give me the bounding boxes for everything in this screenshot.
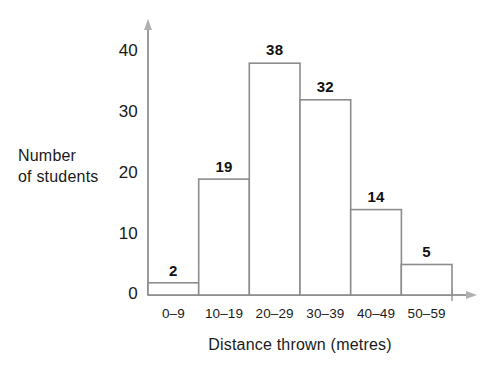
- y-axis: [144, 19, 152, 295]
- bar-value-label-0-9: 2: [148, 263, 199, 278]
- x-axis-title: Distance thrown (metres): [148, 336, 452, 354]
- xtick-label-40-49: 40–49: [349, 307, 404, 321]
- xtick-label-10-19: 10–19: [197, 307, 252, 321]
- bar-40-49: [351, 210, 402, 295]
- ytick-label-10: 10: [98, 225, 138, 242]
- bar-value-label-20-29: 38: [249, 42, 300, 57]
- y-axis-title-line-1: Number: [18, 145, 126, 166]
- xtick-label-20-29: 20–29: [247, 307, 302, 321]
- xtick-label-50-59: 50–59: [399, 307, 454, 321]
- bar-value-label-10-19: 19: [199, 159, 250, 174]
- histogram-chart: 0 10 20 30 40 2 19 38 32 14 5 0–9 10–19 …: [0, 0, 500, 379]
- y-axis-title-line-2: of students: [18, 166, 126, 187]
- bar-30-39: [300, 100, 351, 295]
- xtick-label-30-39: 30–39: [298, 307, 353, 321]
- bar-value-label-30-39: 32: [300, 79, 351, 94]
- bars-group: [148, 63, 452, 295]
- bar-value-label-50-59: 5: [401, 244, 452, 259]
- bar-20-29: [249, 63, 300, 295]
- bar-value-label-40-49: 14: [351, 189, 402, 204]
- ytick-label-30: 30: [98, 103, 138, 120]
- ytick-label-40: 40: [98, 42, 138, 59]
- y-axis-title: Number of students: [18, 145, 126, 187]
- bar-10-19: [199, 179, 250, 295]
- bar-0-9: [148, 283, 199, 295]
- xtick-label-0-9: 0–9: [146, 307, 201, 321]
- ytick-label-0: 0: [98, 285, 138, 302]
- bar-50-59: [401, 265, 452, 296]
